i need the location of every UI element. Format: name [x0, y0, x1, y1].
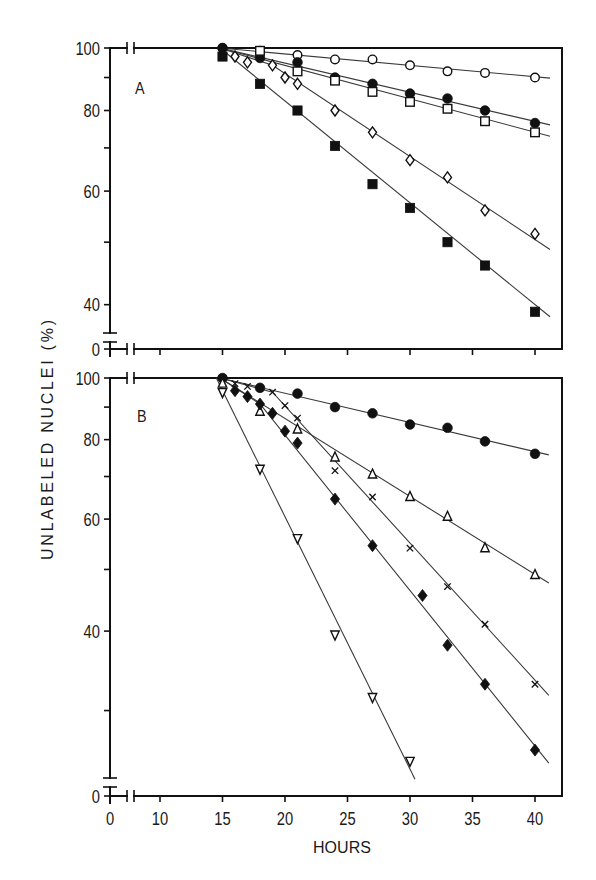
data-point-filled-circle — [293, 58, 303, 68]
data-point-open-triangle-down — [331, 631, 339, 640]
data-point-filled-circle — [530, 449, 540, 459]
data-point-open-triangle — [406, 491, 414, 500]
data-point-open-triangle — [481, 543, 489, 552]
data-point-filled-circle — [293, 389, 303, 399]
data-point-open-square — [293, 67, 302, 76]
fit-line-filled-square — [220, 48, 550, 317]
data-point-open-square — [256, 47, 265, 56]
x-tick-label: 40 — [527, 809, 543, 829]
data-point-filled-circle — [443, 94, 453, 104]
x-tick-label: 0 — [106, 809, 114, 829]
data-point-filled-square — [405, 203, 414, 212]
fit-line-cross — [220, 378, 549, 695]
data-point-open-circle — [531, 73, 540, 82]
panel-a: 1008060400A — [75, 38, 562, 359]
data-point-open-square — [368, 88, 377, 97]
panel-b: 1008060400010152025303540B — [75, 368, 562, 828]
data-point-filled-square — [368, 180, 377, 189]
data-point-filled-diamond — [418, 590, 427, 602]
data-point-filled-circle — [368, 409, 378, 419]
fit-line-open-square — [220, 48, 550, 136]
y-tick-label: 100 — [75, 38, 100, 58]
data-point-open-diamond — [444, 172, 452, 183]
data-point-filled-circle — [405, 89, 415, 99]
y-tick-label: 100 — [75, 368, 100, 388]
data-point-open-circle — [331, 55, 340, 64]
data-point-filled-diamond — [330, 493, 339, 505]
data-point-open-square — [531, 128, 540, 137]
data-point-open-diamond — [481, 205, 489, 216]
data-point-filled-diamond — [368, 540, 377, 552]
chart-panels: 1008060400A1008060400010152025303540B — [75, 38, 562, 828]
y-tick-label: 60 — [84, 181, 100, 201]
data-point-cross — [369, 494, 375, 500]
data-point-open-triangle-down — [406, 757, 414, 766]
y-tick-label: 60 — [84, 509, 100, 529]
fit-lines — [216, 378, 549, 779]
data-point-filled-circle — [530, 118, 540, 128]
panel-label: A — [135, 79, 145, 97]
x-tick-label: 15 — [214, 809, 230, 829]
y-axis-label: UNLABELED NUCLEI (%) — [39, 320, 56, 560]
data-point-filled-circle — [218, 43, 228, 53]
x-tick-label: 35 — [464, 809, 480, 829]
data-point-filled-square — [218, 52, 227, 61]
axes — [103, 372, 562, 803]
fit-lines — [220, 48, 550, 317]
x-axis-label: HOURS — [313, 839, 371, 856]
data-point-open-diamond — [331, 105, 339, 116]
data-point-filled-circle — [480, 106, 490, 116]
data-point-filled-circle — [330, 402, 340, 412]
axes — [103, 42, 562, 356]
panel-label: B — [137, 407, 147, 425]
data-point-cross — [332, 467, 338, 473]
data-point-cross — [407, 545, 413, 551]
x-tick-label: 10 — [152, 809, 168, 829]
x-tick-label: 30 — [402, 809, 418, 829]
data-point-open-diamond — [281, 72, 289, 83]
y-tick-label: 0 — [92, 339, 100, 359]
y-tick-label: 80 — [84, 430, 100, 450]
data-point-filled-square — [255, 79, 264, 88]
y-tick-label: 80 — [84, 101, 100, 121]
data-point-open-triangle-down — [293, 535, 301, 544]
y-tick-label: 40 — [84, 621, 100, 641]
data-point-cross — [282, 402, 288, 408]
data-points — [218, 373, 540, 766]
data-points — [218, 43, 540, 316]
data-point-open-square — [443, 104, 452, 113]
y-tick-label: 40 — [84, 295, 100, 315]
x-tick-label: 25 — [339, 809, 355, 829]
data-point-filled-circle — [480, 437, 490, 447]
data-point-filled-square — [443, 238, 452, 247]
data-point-open-diamond — [369, 127, 377, 138]
data-point-open-triangle — [331, 452, 339, 461]
data-point-cross — [482, 621, 488, 627]
data-point-filled-square — [293, 106, 302, 115]
data-point-filled-square — [530, 307, 539, 316]
data-point-open-circle — [481, 69, 490, 78]
data-point-filled-diamond — [243, 391, 252, 403]
data-point-open-square — [481, 117, 490, 126]
data-point-open-square — [331, 76, 340, 85]
data-point-open-triangle — [531, 570, 539, 579]
data-point-filled-circle — [443, 423, 453, 433]
data-point-open-triangle — [368, 469, 376, 478]
fit-line-open-diamond — [220, 48, 550, 250]
data-point-open-square — [406, 98, 415, 107]
x-tick-label: 20 — [277, 809, 293, 829]
data-point-filled-square — [480, 261, 489, 270]
fit-line-filled-diamond — [220, 378, 549, 763]
data-point-filled-diamond — [530, 744, 539, 756]
data-point-filled-circle — [405, 420, 415, 430]
data-point-open-circle — [368, 55, 377, 64]
fit-line-open-triangle — [220, 378, 549, 583]
data-point-cross — [532, 681, 538, 687]
data-point-filled-circle — [255, 383, 265, 393]
data-point-open-circle — [406, 61, 415, 70]
data-point-open-triangle — [443, 511, 451, 520]
data-point-filled-square — [330, 141, 339, 150]
data-point-open-circle — [443, 67, 452, 76]
data-point-filled-diamond — [280, 425, 289, 437]
y-tick-label: 0 — [92, 786, 100, 806]
